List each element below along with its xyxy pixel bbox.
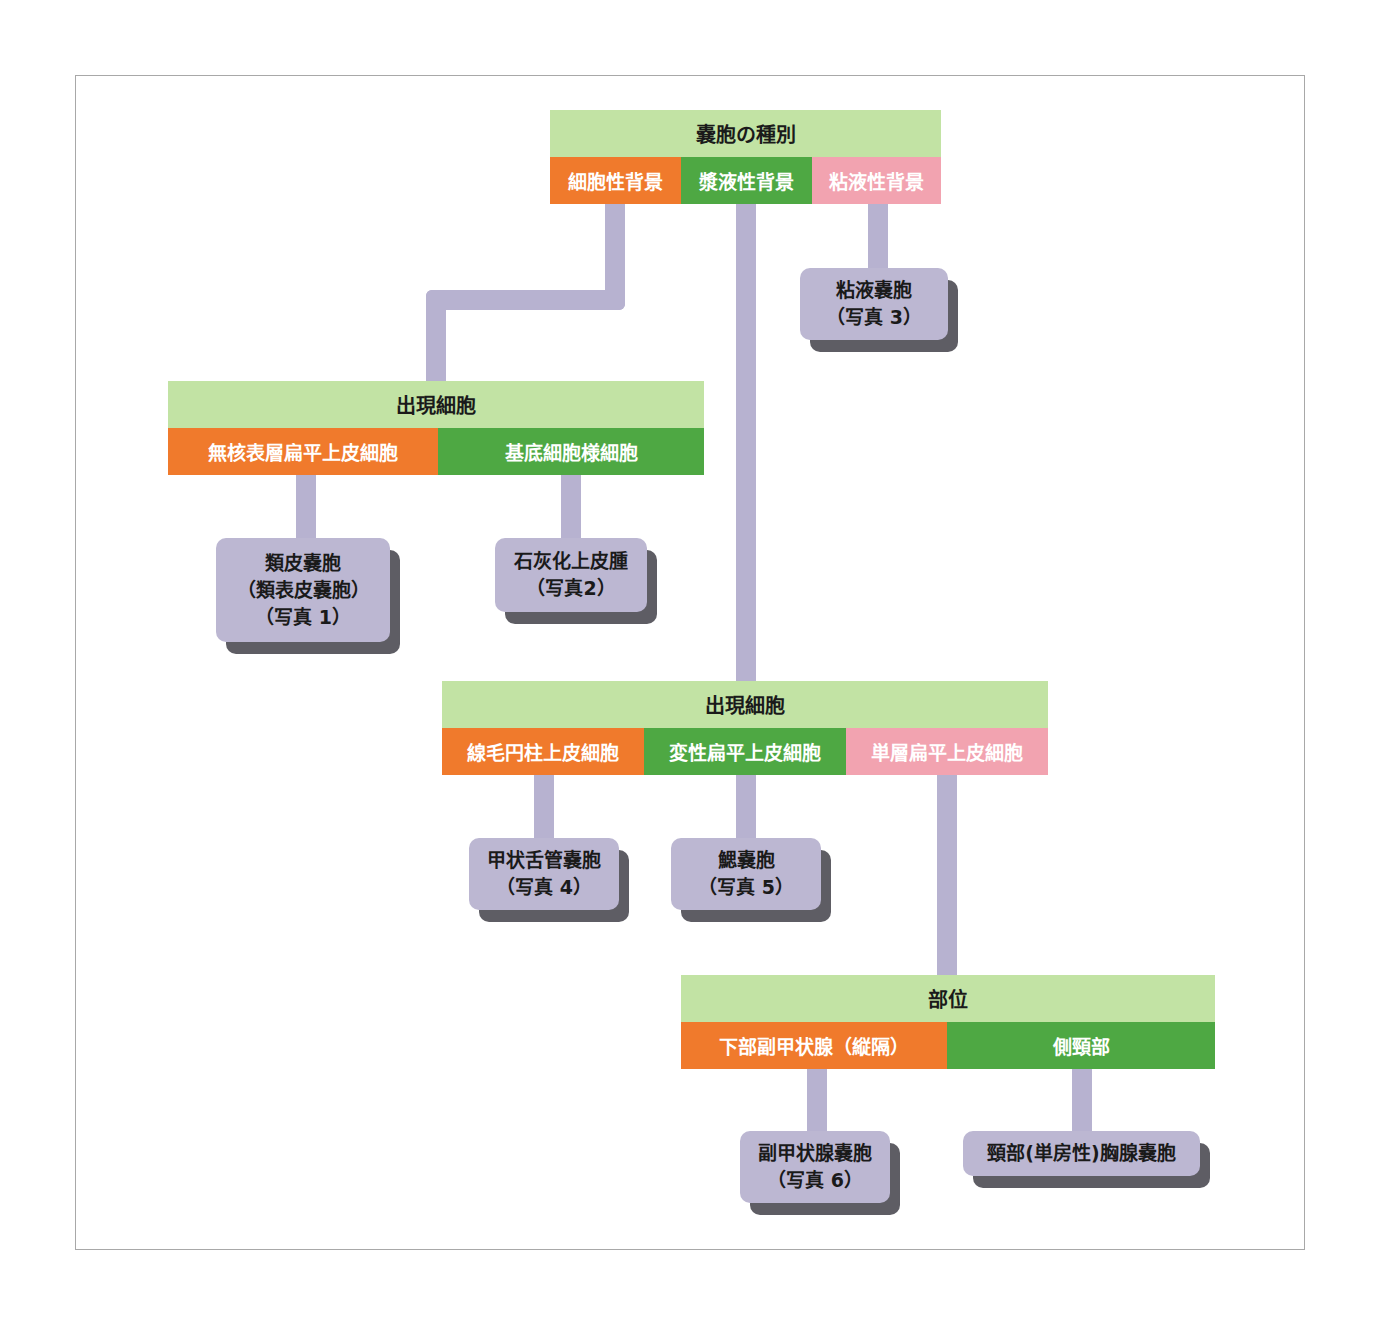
- category-anucleate-squamous: 無核表層扁平上皮細胞: [168, 428, 438, 475]
- connector-leaf-7: [1072, 1068, 1092, 1133]
- serous-appearing-cells-header: 出現細胞 線毛円柱上皮細胞 変性扁平上皮細胞 単層扁平上皮細胞: [442, 681, 1048, 775]
- leaf-line: （写真2）: [526, 575, 615, 602]
- connector-leaf-2: [561, 475, 581, 540]
- site-title: 部位: [681, 975, 1215, 1022]
- connector-leaf-4: [534, 775, 554, 840]
- leaf-line: （写真 3）: [826, 304, 922, 331]
- leaf-branchial-cyst: 鰓嚢胞 （写真 5）: [671, 838, 821, 910]
- leaf-line: 石灰化上皮腫: [514, 548, 628, 575]
- serous-group-title: 出現細胞: [442, 681, 1048, 728]
- leaf-line: （写真 6）: [767, 1167, 863, 1194]
- leaf-line: 鰓嚢胞: [718, 847, 775, 874]
- category-basaloid-cells: 基底細胞様細胞: [438, 428, 704, 475]
- category-cellular-background: 細胞性背景: [550, 157, 681, 204]
- diagram-frame: [75, 75, 1305, 1250]
- leaf-line: （写真 5）: [698, 874, 794, 901]
- leaf-parathyroid-cyst: 副甲状腺嚢胞 （写真 6）: [740, 1131, 890, 1203]
- connector-leaf-5: [736, 775, 756, 840]
- leaf-cervical-thymic-cyst: 頸部(単房性)胸腺嚢胞: [963, 1131, 1200, 1176]
- connector-cellular-horizontal: [426, 290, 625, 310]
- cellular-group-title: 出現細胞: [168, 381, 704, 428]
- leaf-line: 類皮嚢胞: [265, 550, 341, 577]
- connector-mucous: [868, 204, 888, 270]
- connector-leaf-1: [296, 475, 316, 540]
- category-simple-squamous: 単層扁平上皮細胞: [846, 728, 1048, 775]
- leaf-line: （写真 4）: [496, 874, 592, 901]
- category-inferior-parathyroid: 下部副甲状腺（縦隔）: [681, 1022, 947, 1069]
- leaf-line: 頸部(単房性)胸腺嚢胞: [987, 1140, 1175, 1167]
- leaf-pilomatricoma: 石灰化上皮腫 （写真2）: [495, 538, 647, 612]
- category-lateral-neck: 側頸部: [947, 1022, 1215, 1069]
- leaf-mucous-cyst: 粘液嚢胞 （写真 3）: [800, 268, 948, 340]
- category-mucous-background: 粘液性背景: [812, 157, 941, 204]
- leaf-line: （類表皮嚢胞）: [237, 577, 370, 604]
- leaf-line: 甲状舌管嚢胞: [487, 847, 601, 874]
- leaf-line: 粘液嚢胞: [836, 277, 912, 304]
- connector-cellular-to-group: [426, 290, 446, 381]
- site-header: 部位 下部副甲状腺（縦隔） 側頸部: [681, 975, 1215, 1069]
- cyst-type-title: 嚢胞の種別: [550, 110, 941, 157]
- connector-leaf-6: [807, 1068, 827, 1133]
- leaf-dermoid-cyst: 類皮嚢胞 （類表皮嚢胞） （写真 1）: [216, 538, 390, 642]
- cellular-appearing-cells-header: 出現細胞 無核表層扁平上皮細胞 基底細胞様細胞: [168, 381, 704, 475]
- connector-site: [937, 775, 957, 975]
- leaf-line: （写真 1）: [255, 604, 351, 631]
- leaf-thyroglossal-duct-cyst: 甲状舌管嚢胞 （写真 4）: [469, 838, 619, 910]
- category-serous-background: 漿液性背景: [681, 157, 812, 204]
- leaf-line: 副甲状腺嚢胞: [758, 1140, 872, 1167]
- cyst-type-header: 嚢胞の種別 細胞性背景 漿液性背景 粘液性背景: [550, 110, 941, 204]
- connector-serous: [736, 204, 756, 681]
- category-ciliated-columnar: 線毛円柱上皮細胞: [442, 728, 644, 775]
- category-degenerated-squamous: 変性扁平上皮細胞: [644, 728, 846, 775]
